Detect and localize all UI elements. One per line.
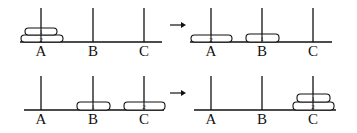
peg-label-c: C [308, 111, 318, 127]
disk-label: 2 [311, 103, 315, 111]
panel-step-4: 2 1 A B C [194, 76, 336, 127]
disk-2: 2 [293, 102, 334, 111]
panel-step-2: 2 1 A B C [190, 8, 332, 59]
panel-step-1: 2 1 A B C [20, 8, 162, 59]
peg-label-c: C [139, 111, 149, 127]
disk-label: 1 [91, 103, 95, 111]
peg-label-a: A [36, 43, 47, 59]
disk-label: 1 [311, 95, 315, 103]
disk-label: 2 [142, 103, 146, 111]
peg-label-c: C [139, 43, 149, 59]
disk-1: 1 [77, 102, 110, 111]
peg-label-a: A [206, 111, 217, 127]
disk-label: 1 [260, 35, 264, 43]
disk-label: 1 [39, 28, 43, 36]
peg-label-b: B [88, 43, 98, 59]
arrow-icon [170, 90, 186, 96]
peg-label-b: B [88, 111, 98, 127]
arrow-icon [170, 22, 186, 28]
peg-label-a: A [36, 111, 47, 127]
panel-step-3: 1 2 A B C [24, 76, 165, 127]
disk-1: 1 [25, 28, 57, 36]
disk-1: 1 [246, 34, 279, 43]
peg-label-b: B [257, 43, 267, 59]
tower-of-hanoi-diagram: 2 1 A B C 2 1 A B C [0, 0, 357, 133]
peg-label-b: B [257, 111, 267, 127]
disk-1: 1 [297, 94, 330, 103]
peg-label-a: A [206, 43, 217, 59]
disk-2: 2 [124, 102, 165, 111]
peg-label-c: C [308, 43, 318, 59]
